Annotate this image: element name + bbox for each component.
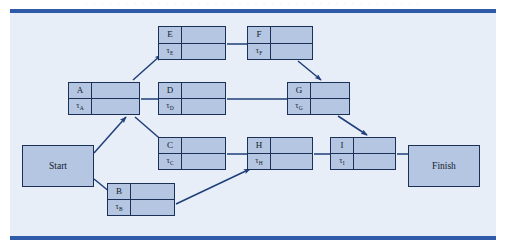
task-d-duration: τD bbox=[159, 99, 182, 114]
task-c-bottom-blank bbox=[182, 154, 225, 169]
task-d-bottom-row: τD bbox=[159, 99, 225, 114]
task-c-top-row: C bbox=[159, 138, 225, 154]
task-i-id: I bbox=[331, 138, 354, 153]
edge-f-to-g bbox=[298, 61, 321, 80]
task-a-bottom-blank bbox=[92, 99, 139, 114]
task-f-duration: τF bbox=[248, 44, 271, 60]
task-i-bottom-row: τI bbox=[331, 154, 395, 169]
node-finish-label: Finish bbox=[432, 161, 456, 171]
task-d-bottom-blank bbox=[182, 99, 225, 114]
node-task-d[interactable]: D τD bbox=[158, 82, 226, 115]
task-b-bottom-row: τB bbox=[108, 200, 174, 215]
task-h-top-blank bbox=[271, 138, 312, 153]
task-a-top-row: A bbox=[69, 83, 139, 99]
task-b-id: B bbox=[108, 184, 131, 199]
task-c-top-blank bbox=[182, 138, 225, 153]
node-task-f[interactable]: F τF bbox=[247, 26, 313, 60]
node-task-g[interactable]: G τG bbox=[287, 82, 350, 115]
task-i-top-row: I bbox=[331, 138, 395, 154]
task-a-duration: τA bbox=[69, 99, 92, 114]
task-g-bottom-blank bbox=[311, 99, 349, 114]
edge-g-to-i bbox=[338, 116, 367, 135]
page-header-faint-text: · · · · · · · · · · · · · · · · · · · · … bbox=[0, 0, 506, 9]
edge-start-to-a bbox=[94, 117, 126, 153]
rule-bottom bbox=[10, 236, 496, 240]
task-b-top-row: B bbox=[108, 184, 174, 200]
task-e-duration: τE bbox=[159, 44, 182, 60]
node-task-c[interactable]: C τC bbox=[158, 137, 226, 170]
node-task-h[interactable]: H τH bbox=[247, 137, 313, 170]
figure-page: · · · · · · · · · · · · · · · · · · · · … bbox=[0, 0, 506, 249]
task-c-id: C bbox=[159, 138, 182, 153]
node-task-a[interactable]: A τA bbox=[68, 82, 140, 115]
task-h-id: H bbox=[248, 138, 271, 153]
task-f-top-blank bbox=[271, 27, 312, 43]
node-task-b[interactable]: B τB bbox=[107, 183, 175, 216]
task-a-top-blank bbox=[92, 83, 139, 98]
task-d-top-blank bbox=[182, 83, 225, 98]
task-h-top-row: H bbox=[248, 138, 312, 154]
task-e-top-blank bbox=[182, 27, 225, 43]
task-c-bottom-row: τC bbox=[159, 154, 225, 169]
task-b-duration: τB bbox=[108, 200, 131, 215]
task-g-top-row: G bbox=[288, 83, 349, 99]
node-finish[interactable]: Finish bbox=[408, 145, 480, 187]
task-e-bottom-row: τE bbox=[159, 44, 225, 60]
task-i-bottom-blank bbox=[354, 154, 395, 169]
task-b-bottom-blank bbox=[131, 200, 174, 215]
task-h-bottom-blank bbox=[271, 154, 312, 169]
task-g-duration: τG bbox=[288, 99, 311, 114]
task-h-bottom-row: τH bbox=[248, 154, 312, 169]
task-h-duration: τH bbox=[248, 154, 271, 169]
task-a-bottom-row: τA bbox=[69, 99, 139, 114]
task-c-duration: τC bbox=[159, 154, 182, 169]
task-i-duration: τI bbox=[331, 154, 354, 169]
task-f-bottom-row: τF bbox=[248, 44, 312, 60]
task-b-top-blank bbox=[131, 184, 174, 199]
node-start-label: Start bbox=[49, 161, 67, 171]
node-task-e[interactable]: E τE bbox=[158, 26, 226, 60]
task-d-top-row: D bbox=[159, 83, 225, 99]
node-task-i[interactable]: I τI bbox=[330, 137, 396, 170]
task-g-id: G bbox=[288, 83, 311, 98]
edges-group bbox=[94, 44, 447, 204]
task-f-bottom-blank bbox=[271, 44, 312, 60]
task-e-top-row: E bbox=[159, 27, 225, 44]
task-e-bottom-blank bbox=[182, 44, 225, 60]
task-i-top-blank bbox=[354, 138, 395, 153]
edge-b-to-h bbox=[176, 169, 250, 204]
task-f-id: F bbox=[248, 27, 271, 43]
task-a-id: A bbox=[69, 83, 92, 98]
task-g-bottom-row: τG bbox=[288, 99, 349, 114]
task-d-id: D bbox=[159, 83, 182, 98]
network-diagram-canvas: Start Finish E τE F bbox=[10, 13, 496, 236]
edge-a-to-e bbox=[133, 55, 161, 80]
task-f-top-row: F bbox=[248, 27, 312, 44]
task-g-top-blank bbox=[311, 83, 349, 98]
task-e-id: E bbox=[159, 27, 182, 43]
node-start[interactable]: Start bbox=[22, 145, 94, 187]
